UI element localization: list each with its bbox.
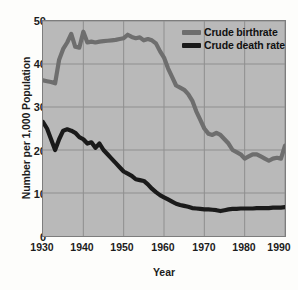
legend-item-death-rate: Crude death rate [182,39,285,51]
chart-figure: Number per 1,000 Population 50 40 30 20 … [0,0,298,290]
legend-label-death-rate: Crude death rate [204,39,285,51]
x-axis-tick-label: 1990 [256,241,298,253]
chart-legend: Crude birthrate Crude death rate [182,26,285,51]
legend-swatch-birthrate [182,30,201,35]
legend-item-birthrate: Crude birthrate [182,26,285,38]
legend-label-birthrate: Crude birthrate [204,26,278,38]
x-axis-tick-label: 1950 [99,241,145,253]
chart-canvas [43,21,285,236]
legend-swatch-death-rate [182,43,201,48]
x-axis-title: Year [42,266,286,278]
plot-area [42,20,286,237]
x-axis-tick-label: 1960 [140,241,186,253]
